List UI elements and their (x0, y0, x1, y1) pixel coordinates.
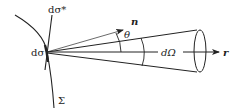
cone-base-ellipse (194, 30, 206, 72)
label-solid-angle: dΩ (161, 47, 176, 58)
normal-vector-arrow (47, 30, 123, 52)
label-angle-theta: θ (124, 29, 130, 40)
label-projected-element: dσ* (48, 4, 66, 15)
solid-angle-diagram: dσ dσ* Σ n θ dΩ r (0, 0, 238, 112)
theta-angle-arc (116, 33, 121, 52)
label-normal-vector: n (131, 16, 138, 27)
label-direction-r: r (223, 47, 229, 58)
label-surface-sigma: Σ (58, 95, 65, 106)
label-surface-element: dσ (31, 47, 44, 58)
